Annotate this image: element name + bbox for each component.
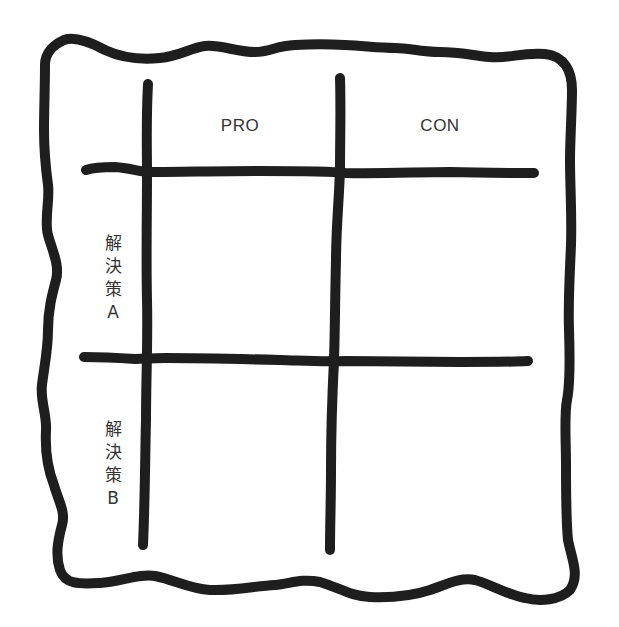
horizontal-line-middle: [84, 357, 528, 362]
row-header-char: 決: [101, 255, 125, 278]
vertical-line-left: [143, 84, 148, 545]
cell-solution-a-pro: [155, 180, 330, 350]
horizontal-line-top: [86, 167, 534, 173]
row-header-char: B: [101, 487, 125, 510]
column-header-con: CON: [420, 116, 459, 136]
row-header-char: 策: [101, 464, 125, 487]
cell-solution-a-con: [348, 180, 528, 350]
cell-solution-b-con: [340, 368, 560, 548]
row-header-solution-b: 解 決 策 B: [101, 418, 125, 510]
row-header-char: 解: [101, 418, 125, 441]
vertical-line-middle: [330, 78, 340, 550]
column-header-pro: PRO: [221, 116, 259, 136]
row-header-solution-a: 解 決 策 A: [101, 232, 125, 324]
row-header-char: 解: [101, 232, 125, 255]
row-header-char: 策: [101, 278, 125, 301]
row-header-char: A: [101, 301, 125, 324]
row-header-char: 決: [101, 441, 125, 464]
cell-solution-b-pro: [155, 368, 327, 548]
